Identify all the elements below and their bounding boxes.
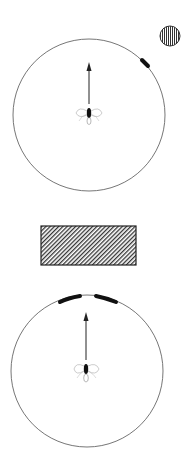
insect-icon bbox=[76, 108, 102, 125]
bottom-panel bbox=[11, 295, 163, 447]
striped-light-source bbox=[160, 26, 180, 46]
orientation-arc bbox=[142, 60, 148, 66]
insect-icon bbox=[74, 364, 99, 382]
heading-arrow bbox=[87, 62, 92, 104]
diagram-canvas bbox=[0, 0, 183, 473]
orientation-arcs bbox=[60, 296, 116, 302]
hatched-light-source bbox=[41, 226, 136, 265]
top-panel bbox=[13, 26, 180, 191]
heading-arrow bbox=[84, 312, 89, 360]
